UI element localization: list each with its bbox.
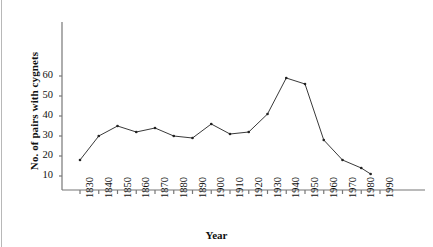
x-tick-label: 1990 — [384, 177, 395, 198]
data-point-markers — [79, 77, 372, 176]
x-tick-label: 1930 — [272, 177, 283, 198]
data-point — [304, 83, 307, 86]
x-tick-label: 1960 — [328, 177, 339, 198]
data-point — [360, 167, 363, 170]
y-tick-label: 60 — [31, 69, 53, 80]
x-tick-label: 1880 — [178, 177, 189, 198]
y-tick-label: 10 — [31, 169, 53, 180]
data-point — [210, 123, 213, 126]
x-tick-label: 1860 — [140, 177, 151, 198]
data-series-line — [80, 78, 371, 174]
x-axis-title: Year — [0, 229, 433, 241]
x-tick-label: 1840 — [103, 177, 114, 198]
x-tick-label: 1870 — [159, 177, 170, 198]
x-tick-label: 1950 — [309, 177, 320, 198]
data-point — [266, 113, 269, 116]
data-point — [97, 135, 100, 138]
data-point — [172, 135, 175, 138]
data-point — [191, 137, 194, 140]
x-tick-label: 1850 — [122, 177, 133, 198]
x-tick-label: 1970 — [347, 177, 358, 198]
x-tick-label: 1920 — [253, 177, 264, 198]
line-chart: No. of pairs with cygnets Year 102030405… — [0, 0, 433, 247]
x-tick-label: 1900 — [215, 177, 226, 198]
axes — [62, 22, 425, 190]
data-point — [116, 125, 119, 128]
y-tick-label: 30 — [31, 129, 53, 140]
data-point — [229, 133, 232, 136]
data-point — [285, 77, 288, 80]
data-point — [369, 173, 372, 176]
x-tick-label: 1980 — [365, 177, 376, 198]
plot-canvas — [0, 0, 433, 247]
data-point — [341, 159, 344, 162]
x-tick-label: 1910 — [234, 177, 245, 198]
data-point — [322, 139, 325, 142]
y-tick-label: 50 — [31, 89, 53, 100]
y-tick-label: 40 — [31, 109, 53, 120]
x-tick-label: 1830 — [84, 177, 95, 198]
data-point — [79, 159, 82, 162]
x-tick-label: 1890 — [197, 177, 208, 198]
x-tick-label: 1940 — [290, 177, 301, 198]
data-point — [154, 127, 157, 130]
data-point — [135, 131, 138, 134]
chart-figure: No. of pairs with cygnets Year 102030405… — [0, 0, 433, 247]
y-tick-label: 20 — [31, 149, 53, 160]
data-point — [247, 131, 250, 134]
